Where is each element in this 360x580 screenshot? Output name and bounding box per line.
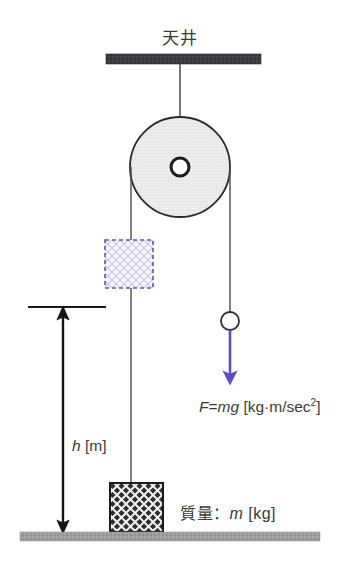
mass-block xyxy=(110,483,163,532)
force-label-symbol-mg: mg xyxy=(218,398,240,415)
mass-label-symbol: m xyxy=(230,505,244,522)
mass-label-prefix: 質量： xyxy=(180,505,230,522)
height-label-units: [m] xyxy=(81,437,107,454)
diagram-canvas xyxy=(0,0,360,580)
force-label-units-open: [kg·m/sec xyxy=(239,398,310,415)
dashed-ghost-box xyxy=(105,240,153,288)
force-label: F=mg [kg·m/sec2] xyxy=(199,397,320,416)
physics-pulley-diagram: 天井 F=mg [kg·m/sec2] h [m] 質量：m [kg] xyxy=(0,0,360,580)
force-label-units-close: ] xyxy=(316,398,320,415)
ground-bar xyxy=(20,532,320,541)
height-label: h [m] xyxy=(72,437,106,455)
mass-label: 質量：m [kg] xyxy=(180,500,276,524)
ceiling-label: 天井 xyxy=(0,24,360,49)
mass-label-units: [kg] xyxy=(243,505,276,522)
ceiling-bar xyxy=(106,54,261,64)
rope-end-ball xyxy=(221,312,239,330)
pulley-hub-inner-icon xyxy=(176,163,184,171)
height-label-symbol: h xyxy=(72,437,81,454)
force-label-equals: = xyxy=(208,398,217,415)
